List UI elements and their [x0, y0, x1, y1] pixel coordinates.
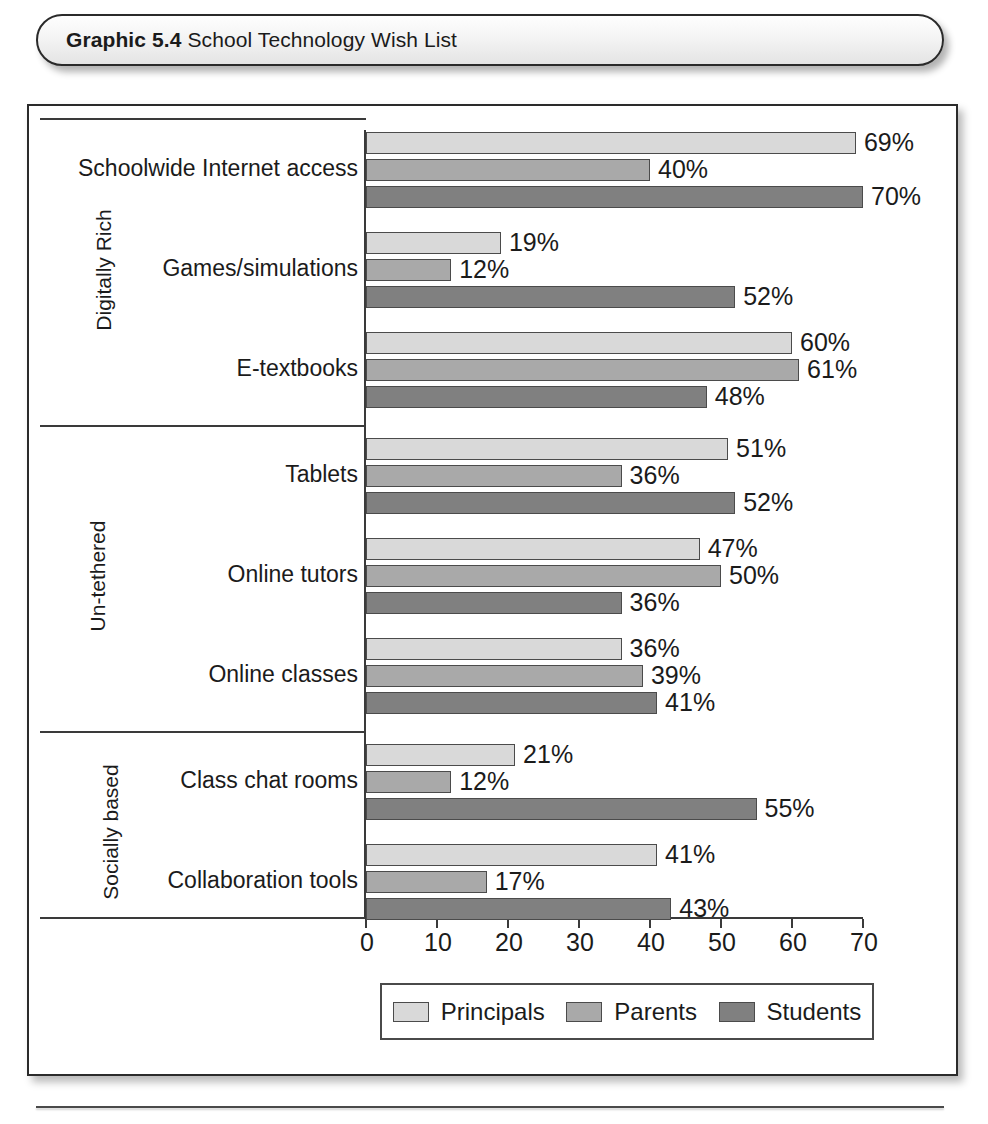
bar-value-label: 43% [679, 897, 729, 919]
category-label: Schoolwide Internet access [74, 155, 358, 182]
bar-value-label: 41% [665, 691, 715, 713]
bar-students-e-textbooks [366, 386, 707, 408]
bar-students-tablets [366, 492, 735, 514]
legend-label: Principals [441, 998, 545, 1026]
legend-swatch-icon [393, 1002, 429, 1022]
bar-value-label: 36% [630, 591, 680, 613]
bar-value-label: 36% [630, 637, 680, 659]
bar-parents-tablets [366, 465, 622, 487]
bar-value-label: 41% [665, 843, 715, 865]
bar-students-games-simulations [366, 286, 735, 308]
chart-legend: PrincipalsParentsStudents [380, 983, 874, 1040]
axis-tick-label: 10 [408, 928, 468, 957]
bar-principals-tablets [366, 438, 728, 460]
legend-label: Students [767, 998, 862, 1026]
bar-principals-class-chat-rooms [366, 744, 515, 766]
legend-swatch-icon [719, 1002, 755, 1022]
bar-value-label: 40% [658, 158, 708, 180]
bar-value-label: 12% [459, 770, 509, 792]
bar-principals-online-classes [366, 638, 622, 660]
axis-tick-label: 0 [337, 928, 397, 957]
bar-value-label: 36% [630, 464, 680, 486]
bar-principals-online-tutors [366, 538, 700, 560]
legend-item-students[interactable]: Students [719, 998, 862, 1026]
group-label-un-tethered: Un-tethered [43, 438, 67, 714]
axis-tick-label: 40 [621, 928, 681, 957]
axis-tick [791, 919, 793, 928]
group-label-text: Un-tethered [0, 521, 236, 632]
legend-label: Parents [614, 998, 697, 1026]
legend-item-principals[interactable]: Principals [393, 998, 545, 1026]
bar-parents-online-classes [366, 665, 643, 687]
bar-value-label: 21% [523, 743, 573, 765]
bar-students-collaboration-tools [366, 898, 671, 920]
axis-tick [507, 919, 509, 928]
group-label-text: Digitally Rich [0, 209, 242, 330]
graphic-number: Graphic 5.4 [66, 28, 181, 51]
bar-value-label: 12% [459, 258, 509, 280]
bar-principals-e-textbooks [366, 332, 792, 354]
bar-value-label: 69% [864, 131, 914, 153]
legend-swatch-icon [566, 1002, 602, 1022]
bar-parents-schoolwide-internet-access [366, 159, 650, 181]
category-label: Online classes [74, 661, 358, 688]
legend-item-parents[interactable]: Parents [566, 998, 697, 1026]
category-label: E-textbooks [74, 355, 358, 382]
bar-value-label: 19% [509, 231, 559, 253]
bar-value-label: 51% [736, 437, 786, 459]
bar-chart-plot: 01020304050607069%40%70%Schoolwide Inter… [29, 106, 956, 1074]
category-label: Tablets [74, 461, 358, 488]
axis-tick [649, 919, 651, 928]
axis-tick [365, 919, 367, 928]
group-label-text: Socially based [23, 764, 199, 899]
bar-value-label: 47% [708, 537, 758, 559]
group-separator [40, 425, 366, 427]
bar-value-label: 60% [800, 331, 850, 353]
bar-value-label: 17% [495, 870, 545, 892]
bar-parents-online-tutors [366, 565, 721, 587]
page-title: Graphic 5.4 School Technology Wish List [38, 28, 457, 52]
bar-principals-collaboration-tools [366, 844, 657, 866]
axis-tick-label: 70 [834, 928, 894, 957]
bar-students-schoolwide-internet-access [366, 186, 863, 208]
group-separator-top [40, 118, 366, 120]
axis-tick [578, 919, 580, 928]
bar-students-online-tutors [366, 592, 622, 614]
bar-students-online-classes [366, 692, 657, 714]
group-label-digitally-rich: Digitally Rich [43, 132, 67, 408]
graphic-title-bar: Graphic 5.4 School Technology Wish List [36, 14, 944, 66]
bar-parents-collaboration-tools [366, 871, 487, 893]
bar-value-label: 52% [743, 285, 793, 307]
axis-tick-label: 30 [550, 928, 610, 957]
axis-tick-label: 20 [479, 928, 539, 957]
chart-container: 01020304050607069%40%70%Schoolwide Inter… [27, 104, 958, 1076]
axis-tick [436, 919, 438, 928]
axis-tick-label: 60 [763, 928, 823, 957]
bar-parents-class-chat-rooms [366, 771, 451, 793]
bar-principals-schoolwide-internet-access [366, 132, 856, 154]
group-separator [40, 731, 366, 733]
graphic-title: School Technology Wish List [181, 28, 457, 51]
bar-parents-games-simulations [366, 259, 451, 281]
bar-parents-e-textbooks [366, 359, 799, 381]
axis-tick-label: 50 [692, 928, 752, 957]
bar-value-label: 52% [743, 491, 793, 513]
group-label-socially-based: Socially based [43, 744, 67, 920]
footer-rule [36, 1106, 944, 1108]
bar-value-label: 50% [729, 564, 779, 586]
bar-value-label: 48% [715, 385, 765, 407]
bar-value-label: 39% [651, 664, 701, 686]
bar-students-class-chat-rooms [366, 798, 757, 820]
bar-value-label: 61% [807, 358, 857, 380]
bar-value-label: 70% [871, 185, 921, 207]
axis-tick [862, 919, 864, 928]
bar-principals-games-simulations [366, 232, 501, 254]
bar-value-label: 55% [765, 797, 815, 819]
